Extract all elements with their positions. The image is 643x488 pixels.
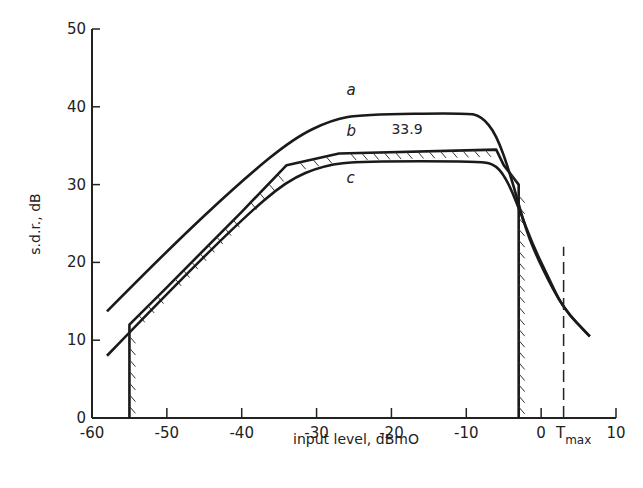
curve-label-c: c: [347, 169, 356, 187]
x-tick-label: -40: [229, 424, 254, 442]
sdr-chart: 01020304050-60-50-40-30-20-10010 input l…: [0, 0, 643, 488]
y-tick-label: 40: [67, 98, 86, 116]
x-tick-label: 0: [536, 424, 546, 442]
series-lines: [107, 114, 590, 418]
x-tick-label: -50: [155, 424, 180, 442]
y-tick-label: 20: [67, 253, 86, 271]
annotation-33-9: 33.9: [391, 121, 422, 137]
x-tick-label: -60: [80, 424, 105, 442]
curve-label-b: b: [347, 122, 357, 140]
hatch-mark: [326, 156, 332, 163]
curve-label-a: a: [347, 81, 356, 99]
series-b-line: [129, 150, 518, 418]
hatch-mark: [278, 174, 284, 181]
y-tick-label: 10: [67, 331, 86, 349]
hatch-mark: [269, 184, 275, 191]
y-tick-label: 50: [67, 20, 86, 38]
x-tick-label: 10: [606, 424, 625, 442]
series-a-line: [107, 114, 590, 337]
tmax-label: Tmax: [555, 424, 591, 447]
y-axis-title: s.d.r., dB: [27, 193, 43, 254]
hatch-mark: [300, 162, 306, 169]
x-tick-label: -10: [454, 424, 479, 442]
y-tick-label: 30: [67, 176, 86, 194]
series-c-line: [107, 161, 590, 356]
x-axis-title: input level, dBmO: [293, 431, 419, 447]
hatch-mark: [313, 159, 319, 166]
